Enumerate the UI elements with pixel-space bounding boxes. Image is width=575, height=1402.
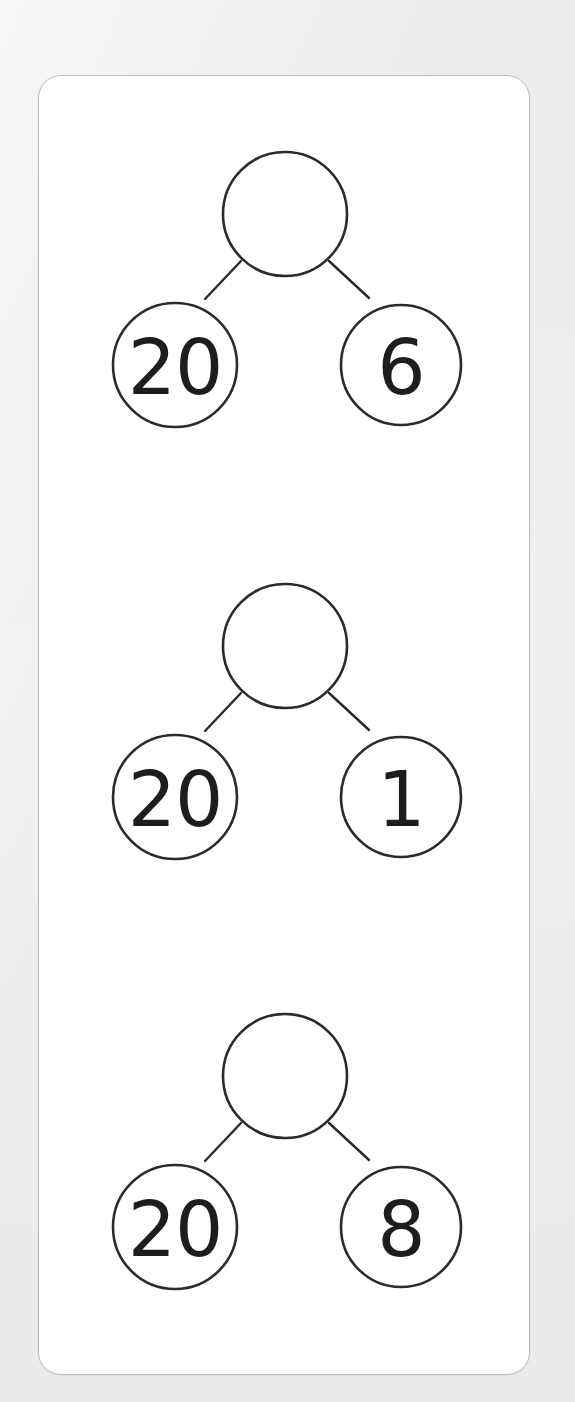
part-left-node-value: 20 <box>128 755 223 844</box>
number-bond-2: 20 1 <box>39 568 531 868</box>
number-bond-1: 20 6 <box>39 136 531 436</box>
whole-node-circle[interactable] <box>223 584 347 708</box>
part-right-node-value: 1 <box>377 755 424 844</box>
part-left-node-value: 20 <box>128 323 223 412</box>
part-right-node-value: 8 <box>377 1185 424 1274</box>
whole-node-circle[interactable] <box>223 1014 347 1138</box>
bond-link-right <box>329 1123 369 1160</box>
part-right-node-value: 6 <box>377 323 424 412</box>
part-left-node-value: 20 <box>128 1185 223 1274</box>
bond-link-left <box>205 1123 241 1161</box>
worksheet-card: 20 6 20 1 20 8 <box>38 75 530 1375</box>
bond-link-left <box>205 261 241 299</box>
number-bond-3: 20 8 <box>39 998 531 1298</box>
whole-node-circle[interactable] <box>223 152 347 276</box>
bond-link-right <box>329 261 369 298</box>
bond-link-left <box>205 693 241 731</box>
bond-link-right <box>329 693 369 730</box>
